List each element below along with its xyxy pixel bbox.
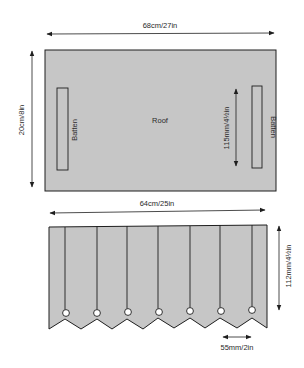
bead-circle	[249, 307, 256, 314]
roof-panel: 68cm/27in 20cm/8in Batten Roof 115mm/4½i…	[17, 21, 278, 191]
roof-height-label: 20cm/8in	[17, 105, 26, 135]
bead-circle	[156, 309, 163, 316]
valance-width-arrow	[50, 210, 265, 213]
batten-left	[57, 88, 68, 170]
bead-circle	[187, 308, 194, 315]
craft-pattern-diagram: 68cm/27in 20cm/8in Batten Roof 115mm/4½i…	[0, 0, 304, 368]
point-spacing-label: 55mm/2in	[221, 343, 254, 352]
bead-circle	[125, 309, 132, 316]
bead-circle	[63, 310, 70, 317]
bead-circle	[94, 310, 101, 317]
roof-label: Roof	[152, 116, 169, 125]
roof-width-arrow	[47, 33, 274, 34]
roof-width-label: 68cm/27in	[143, 21, 178, 30]
valance-width-label: 64cm/25in	[140, 199, 175, 208]
batten-right-label: Batten	[269, 116, 278, 138]
valance-height-label: 112mm/4½in	[284, 245, 293, 288]
batten-spacing-label: 115mm/4½in	[222, 107, 231, 150]
batten-left-label: Batten	[70, 119, 79, 141]
bead-circle	[218, 308, 225, 315]
batten-right	[252, 86, 262, 168]
valance-panel: 64cm/25in 112mm/4½in 55mm/2in	[49, 199, 293, 352]
